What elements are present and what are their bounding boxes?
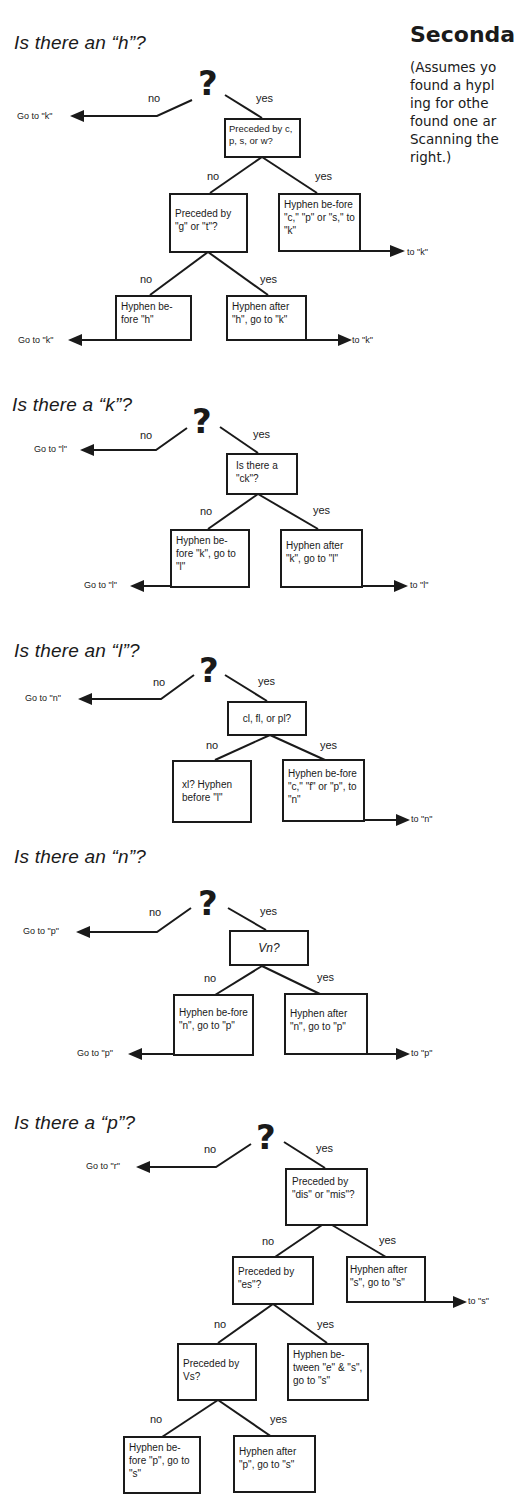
action-box: Hyphen after "h", go to "k" [226, 295, 307, 341]
decision-box: Preceded by c, p, s, or w? [224, 118, 301, 158]
tree-heading: Is there an “h”? [14, 32, 146, 54]
decision-box: Preceded by Vs? [177, 1343, 257, 1401]
branch-no-label: no [204, 1143, 216, 1155]
action-box: Hyphen be-fore "h" [115, 295, 192, 341]
branch-no-label: no [207, 170, 219, 182]
decision-box: cl, fl, or pl? [227, 701, 307, 736]
goto-label: Go to "k" [18, 335, 53, 345]
goto-label: to "l" [410, 580, 428, 590]
branch-yes-label: yes [317, 1318, 334, 1330]
goto-label: Go to "l" [34, 444, 67, 454]
question-mark-icon: ? [198, 886, 218, 920]
goto-label: Go to "p" [23, 926, 59, 936]
action-box: Hyphen be-fore "k", go to "l" [170, 529, 250, 588]
action-box: Hyphen after "p", go to "s" [233, 1435, 316, 1493]
branch-no-label: no [204, 972, 216, 984]
branch-no-label: no [150, 1413, 162, 1425]
branch-yes-label: yes [270, 1413, 287, 1425]
action-box: Hyphen after "k", go to "l" [280, 529, 363, 588]
intro-line: found a hypl [410, 76, 518, 94]
branch-yes-label: yes [320, 739, 337, 751]
decision-box: Preceded by "dis" or "mis"? [285, 1168, 368, 1226]
action-box: Hyphen be-fore "n", go to "p" [173, 994, 254, 1056]
question-mark-icon: ? [256, 1120, 276, 1154]
tree-heading: Is there a “k”? [12, 394, 132, 416]
goto-label: Go to "n" [25, 693, 61, 703]
branch-yes-label: yes [260, 273, 277, 285]
branch-yes-label: yes [317, 971, 334, 983]
branch-no-label: no [148, 92, 160, 104]
branch-yes-label: yes [258, 675, 275, 687]
goto-label: to "s" [468, 1296, 489, 1306]
branch-no-label: no [140, 429, 152, 441]
branch-no-label: no [149, 906, 161, 918]
intro-line: found one ar [410, 112, 518, 130]
branch-yes-label: yes [379, 1234, 396, 1246]
section-title: Seconda [410, 22, 515, 47]
decision-box: Is there a "ck"? [226, 453, 298, 495]
goto-label: to "n" [411, 814, 432, 824]
branch-yes-label: yes [260, 905, 277, 917]
branch-yes-label: yes [253, 428, 270, 440]
action-box: Hyphen after "n", go to "p" [284, 993, 368, 1055]
goto-label: Go to "l" [84, 580, 117, 590]
goto-label: Go to "r" [86, 1161, 120, 1171]
decision-box: Vn? [229, 930, 309, 966]
intro-line: (Assumes yo [410, 58, 518, 76]
branch-yes-label: yes [256, 92, 273, 104]
action-box: Hyphen after "s", go to "s" [346, 1256, 426, 1303]
intro-line: right.) [410, 148, 518, 166]
branch-no-label: no [206, 739, 218, 751]
goto-label: to "p" [411, 1048, 432, 1058]
decision-box: Preceded by "g" or "t"? [169, 193, 248, 253]
question-mark-icon: ? [199, 653, 219, 687]
section-intro: (Assumes yo found a hypl ing for othe fo… [410, 58, 518, 166]
branch-no-label: no [262, 1235, 274, 1247]
tree-heading: Is there a “p”? [14, 1112, 135, 1134]
question-mark-icon: ? [192, 404, 212, 438]
branch-no-label: no [153, 676, 165, 688]
goto-label: to "k" [407, 247, 428, 257]
tree-heading: Is there an “l”? [14, 640, 140, 662]
decision-box: Preceded by "es"? [232, 1256, 314, 1305]
action-box: Hyphen be-fore "c," "p" or "s," to "k" [278, 193, 361, 252]
goto-label: Go to "p" [77, 1048, 113, 1058]
branch-yes-label: yes [315, 170, 332, 182]
branch-yes-label: yes [313, 504, 330, 516]
branch-no-label: no [214, 1318, 226, 1330]
branch-yes-label: yes [316, 1142, 333, 1154]
action-box: Hyphen be-fore "p", go to "s" [123, 1436, 201, 1494]
intro-line: ing for othe [410, 94, 518, 112]
branch-no-label: no [140, 273, 152, 285]
tree-heading: Is there an “n”? [14, 846, 146, 868]
question-mark-icon: ? [198, 66, 218, 100]
action-box: Hyphen be-tween "e" & "s", go to "s" [287, 1343, 369, 1401]
goto-label: to "k" [352, 335, 373, 345]
goto-label: Go to "k" [17, 111, 52, 121]
action-box: xl? Hyphen before "l" [172, 760, 252, 823]
action-box: Hyphen be-fore "c," "f" or "p", to "n" [282, 759, 365, 822]
branch-no-label: no [200, 505, 212, 517]
intro-line: Scanning the [410, 130, 518, 148]
